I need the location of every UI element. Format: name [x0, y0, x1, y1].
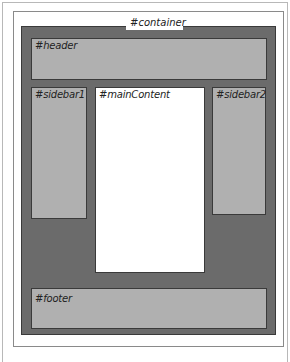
sidebar1-label: #sidebar1	[35, 89, 85, 100]
footer-box: #footer	[31, 288, 267, 329]
header-box: #header	[31, 38, 267, 80]
footer-label: #footer	[35, 293, 72, 304]
sidebar2-box: #sidebar2	[212, 87, 266, 215]
container-label: #container	[130, 17, 186, 28]
sidebar2-label: #sidebar2	[216, 89, 266, 100]
header-label: #header	[35, 40, 77, 51]
sidebar1-box: #sidebar1	[31, 87, 87, 219]
main-content-box: #mainContent	[95, 87, 205, 273]
container-box: #header #sidebar1 #mainContent #sidebar2…	[21, 26, 276, 335]
main-content-label: #mainContent	[99, 89, 170, 100]
